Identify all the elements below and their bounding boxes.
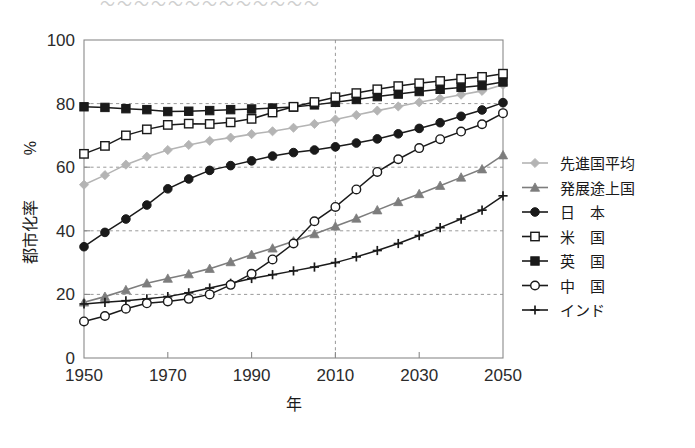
marker-日 本-1965	[143, 201, 152, 210]
marker-中 国-1985	[226, 281, 235, 290]
marker-英 国-1965	[143, 105, 151, 113]
marker-中 国-2015	[352, 185, 361, 194]
marker-中 国-2035	[436, 135, 445, 144]
marker-米 国-2010	[331, 93, 339, 101]
marker-米 国-1980	[206, 120, 214, 128]
marker-中 国-1955	[101, 312, 110, 321]
marker-発展途上国-2050	[498, 151, 507, 159]
marker-中 国-1975	[184, 295, 193, 304]
marker-英 国-2030	[415, 87, 423, 95]
ytick-label-20: 20	[56, 285, 75, 304]
marker-中 国-2020	[373, 168, 382, 177]
ytick-label-40: 40	[56, 222, 75, 241]
marker-英 国-2050	[499, 78, 507, 86]
series-line-中 国	[84, 113, 503, 321]
marker-中 国-2045	[478, 120, 487, 129]
marker-中 国-1960	[122, 304, 131, 313]
marker-米 国-2015	[352, 89, 360, 97]
marker-英 国-1970	[164, 107, 172, 115]
marker-日 本-1990	[247, 157, 256, 166]
legend-label-日 本: 日 本	[560, 204, 605, 222]
marker-日 本-1975	[184, 175, 193, 184]
marker-中 国-2050	[499, 109, 508, 118]
marker-米 国-1950	[80, 150, 88, 158]
marker-日 本-1950	[80, 242, 89, 251]
chart-canvas: 020406080100195019701990201020302050都市化率…	[0, 0, 695, 448]
marker-先進国平均-1950	[79, 180, 88, 189]
marker-先進国平均-1995	[268, 127, 277, 136]
marker-米 国-1970	[164, 121, 172, 129]
marker-日 本-1980	[205, 166, 214, 175]
marker-日 本-2040	[457, 112, 466, 121]
marker-日 本-1955	[101, 228, 110, 237]
marker-中 国-1980	[205, 290, 214, 299]
marker-中 国-1970	[164, 297, 173, 306]
marker-英 国-1990	[247, 105, 255, 113]
marker-先進国平均-1955	[100, 171, 109, 180]
marker-先進国平均-1985	[226, 133, 235, 142]
marker-先進国平均-2010	[331, 115, 340, 124]
marker-米 国-2050	[499, 70, 507, 78]
marker-米 国-1990	[247, 115, 255, 123]
marker-日 本-1995	[268, 152, 277, 161]
legend-marker-中 国	[531, 281, 540, 290]
marker-英 国-1950	[80, 103, 88, 111]
marker-先進国平均-2005	[310, 119, 319, 128]
marker-日 本-2000	[289, 148, 298, 157]
marker-米 国-1995	[268, 108, 276, 116]
marker-英 国-1960	[122, 104, 130, 112]
xtick-label-1970: 1970	[149, 366, 187, 385]
x-axis-title: 年	[286, 396, 302, 413]
marker-先進国平均-2000	[289, 123, 298, 132]
marker-日 本-2020	[373, 135, 382, 144]
urbanization-rate-chart: 〜〜〜〜〜〜〜〜〜〜〜〜〜 02040608010019501970199020…	[0, 0, 695, 448]
legend-label-先進国平均: 先進国平均	[560, 155, 635, 173]
marker-先進国平均-2035	[436, 94, 445, 103]
xtick-label-1950: 1950	[65, 366, 103, 385]
marker-英 国-2025	[394, 90, 402, 98]
marker-英 国-1955	[101, 103, 109, 111]
marker-米 国-2025	[394, 82, 402, 90]
marker-日 本-2015	[352, 139, 361, 148]
marker-米 国-2020	[373, 85, 381, 93]
ytick-label-80: 80	[56, 95, 75, 114]
legend-marker-日 本	[531, 208, 540, 217]
marker-米 国-2040	[457, 75, 465, 83]
marker-先進国平均-1970	[163, 145, 172, 154]
marker-中 国-2025	[394, 155, 403, 164]
legend-marker-英 国	[531, 257, 539, 265]
marker-米 国-2035	[436, 77, 444, 85]
marker-日 本-1985	[226, 161, 235, 170]
legend-marker-米 国	[531, 232, 539, 240]
series-line-インド	[84, 196, 503, 304]
marker-日 本-2005	[310, 146, 319, 155]
marker-中 国-2005	[310, 217, 319, 226]
marker-米 国-1975	[185, 119, 193, 127]
marker-米 国-2045	[478, 73, 486, 81]
marker-日 本-2010	[331, 143, 340, 152]
marker-英 国-2045	[478, 81, 486, 89]
marker-中 国-2010	[331, 203, 340, 212]
cropped-title-remnant: 〜〜〜〜〜〜〜〜〜〜〜〜〜	[100, 0, 500, 12]
ytick-label-100: 100	[47, 31, 75, 50]
marker-中 国-2040	[457, 127, 466, 136]
xtick-label-2030: 2030	[400, 366, 438, 385]
marker-先進国平均-2015	[352, 110, 361, 119]
y-axis-title: 都市化率	[22, 200, 39, 264]
marker-米 国-1965	[143, 125, 151, 133]
marker-中 国-1990	[247, 269, 256, 278]
marker-米 国-2000	[289, 103, 297, 111]
marker-先進国平均-1980	[205, 136, 214, 145]
marker-米 国-1960	[122, 131, 130, 139]
legend-label-中 国: 中 国	[560, 278, 605, 296]
xtick-label-2010: 2010	[316, 366, 354, 385]
legend-marker-先進国平均	[530, 158, 539, 167]
marker-発展途上国-2045	[477, 165, 486, 173]
marker-米 国-1985	[226, 118, 234, 126]
legend-label-発展途上国: 発展途上国	[560, 180, 635, 198]
marker-日 本-2045	[478, 106, 487, 115]
marker-先進国平均-2020	[373, 106, 382, 115]
marker-英 国-2040	[457, 83, 465, 91]
marker-日 本-2025	[394, 130, 403, 139]
marker-英 国-2035	[436, 85, 444, 93]
